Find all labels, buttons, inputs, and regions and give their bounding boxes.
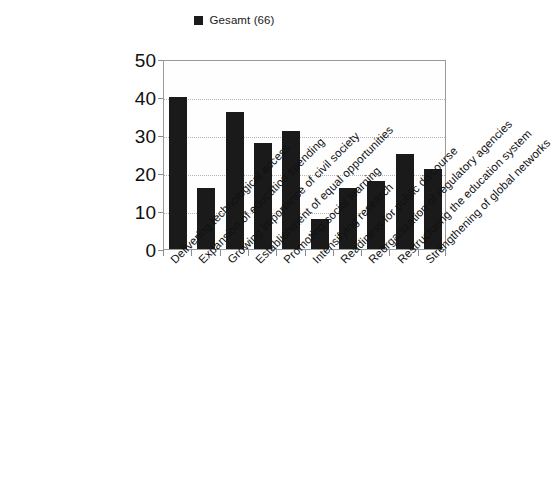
bar xyxy=(169,97,187,249)
y-axis-tick-label: 30 xyxy=(135,127,156,146)
legend-swatch-icon xyxy=(194,16,203,25)
y-axis-labels: 50403020100 xyxy=(110,60,156,250)
y-axis-tick-label: 40 xyxy=(135,89,156,108)
y-axis-tick-label: 50 xyxy=(135,51,156,70)
chart-legend: Gesamt (66) xyxy=(0,14,469,26)
x-axis-labels: Delivering technological accessExpansion… xyxy=(0,250,469,493)
y-axis-tick-label: 10 xyxy=(135,203,156,222)
legend-label: Gesamt (66) xyxy=(209,14,274,26)
y-axis-tick-label: 20 xyxy=(135,165,156,184)
